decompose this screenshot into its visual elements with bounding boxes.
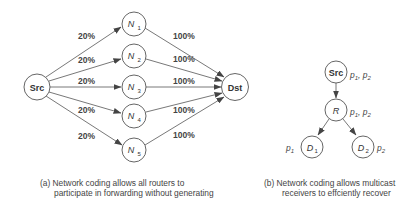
svg-text:D: D	[358, 143, 365, 153]
node-d2: D 2	[352, 136, 374, 158]
node-src-b: Src	[325, 61, 347, 83]
node-n4: N 4	[122, 104, 146, 128]
router-packets-label: p1, p2	[349, 107, 372, 118]
node-n5: N 5	[122, 138, 146, 162]
node-d1: D 1	[301, 136, 323, 158]
caption-a-line1: (a) Network coding allows all routers to	[40, 178, 184, 188]
edge-label-src-n1: 20%	[78, 31, 95, 41]
caption-a-line2: participate in forwarding without genera…	[54, 188, 214, 198]
node-n2: N 2	[122, 44, 146, 68]
edge-label-src-n2: 20%	[78, 55, 95, 65]
caption-b-line2: receivers to effciently recover	[282, 188, 391, 198]
edge-label-src-n4: 20%	[78, 105, 95, 115]
svg-text:R: R	[333, 106, 340, 116]
src-packets-label: p1, p2	[349, 70, 372, 81]
node-dst: Dst	[222, 74, 249, 101]
svg-text:Dst: Dst	[228, 83, 243, 93]
edge-label-n2-dst: 100%	[173, 54, 195, 64]
svg-text:N: N	[128, 82, 135, 92]
svg-text:Src: Src	[329, 68, 344, 78]
edge-label-n3-dst: 100%	[173, 76, 195, 86]
network-coding-figure: 20% 20% 20% 20% 20% 100% 100% 100% 100% …	[0, 0, 415, 199]
node-r: R	[325, 99, 347, 121]
d1-packet-label: p1	[285, 143, 294, 154]
svg-text:N: N	[128, 111, 135, 121]
edge-label-n4-dst: 100%	[173, 105, 195, 115]
svg-text:D: D	[307, 143, 314, 153]
edge-label-src-n3: 20%	[78, 76, 95, 86]
svg-text:N: N	[128, 51, 135, 61]
caption-b-line1: (b) Network coding allows multicast	[264, 178, 395, 188]
edge-label-n1-dst: 100%	[173, 31, 195, 41]
edge-label-src-n5: 20%	[78, 131, 95, 141]
node-n1: N 1	[122, 12, 146, 36]
edge-label-n5-dst: 100%	[173, 130, 195, 140]
node-n3: N 3	[122, 75, 146, 99]
node-src-a: Src	[24, 74, 50, 100]
svg-text:N: N	[128, 145, 135, 155]
svg-text:N: N	[128, 19, 135, 29]
d2-packet-label: p2	[376, 143, 386, 154]
svg-text:Src: Src	[30, 83, 45, 93]
